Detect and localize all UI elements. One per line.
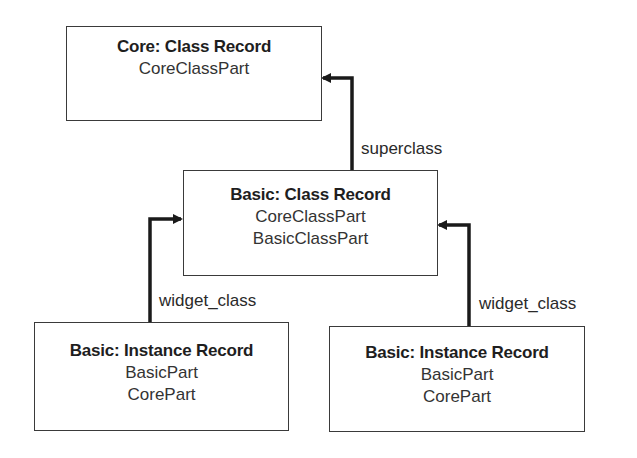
superclass-arrow bbox=[323, 78, 352, 171]
node-part: CorePart bbox=[35, 384, 288, 406]
basic-instance-record-right-box: Basic: Instance Record BasicPart CorePar… bbox=[329, 326, 585, 432]
node-title: Basic: Instance Record bbox=[35, 340, 288, 362]
node-part: CorePart bbox=[330, 386, 584, 408]
node-title: Basic: Class Record bbox=[184, 184, 437, 206]
node-part: BasicPart bbox=[330, 364, 584, 386]
node-part: BasicPart bbox=[35, 362, 288, 384]
core-class-record-box: Core: Class Record CoreClassPart bbox=[66, 26, 322, 121]
superclass-label: superclass bbox=[361, 139, 442, 159]
basic-instance-record-left-box: Basic: Instance Record BasicPart CorePar… bbox=[34, 322, 289, 431]
node-part: BasicClassPart bbox=[184, 228, 437, 250]
widget-class-label-left: widget_class bbox=[159, 291, 256, 311]
basic-class-record-box: Basic: Class Record CoreClassPart BasicC… bbox=[183, 170, 438, 276]
node-title: Core: Class Record bbox=[67, 36, 321, 58]
widget-class-label-right: widget_class bbox=[479, 294, 576, 314]
node-part: CoreClassPart bbox=[67, 58, 321, 80]
node-part: CoreClassPart bbox=[184, 206, 437, 228]
widget-class-arrow-right bbox=[439, 225, 469, 327]
node-title: Basic: Instance Record bbox=[330, 342, 584, 364]
